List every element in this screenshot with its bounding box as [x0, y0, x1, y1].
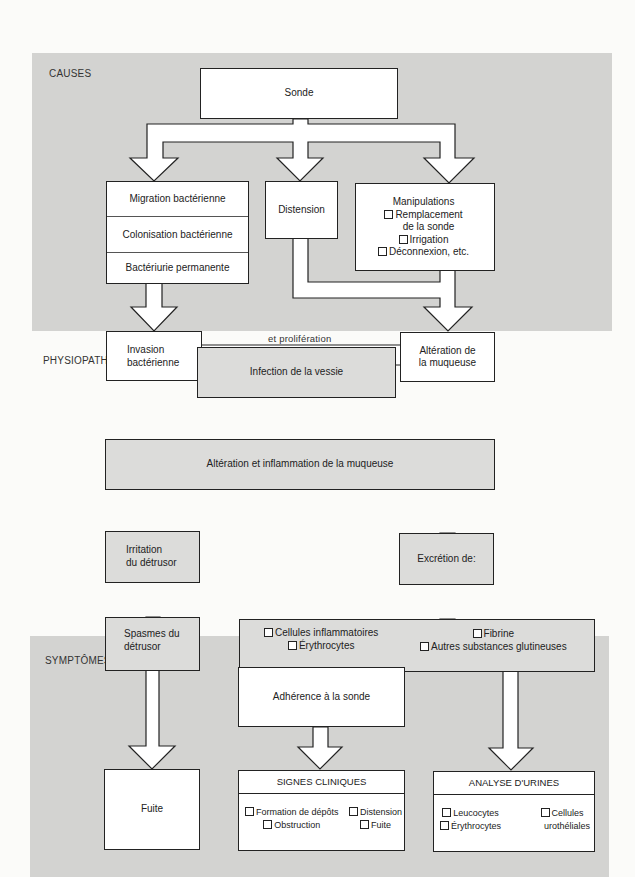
node-alteration-inflammation: Altération et inflammation de la muqueus… — [105, 439, 495, 490]
checkbox-icon — [245, 807, 254, 816]
checkbox-icon — [263, 820, 272, 829]
node-signes-cliniques: SIGNES CLINIQUES Formation de dépôts Obs… — [238, 770, 405, 851]
checkbox-icon — [420, 642, 429, 651]
node-excretion: Excrétion de: — [399, 533, 494, 585]
node-irritation: Irritation du détrusor — [105, 531, 200, 583]
node-adherence: Adhérence à la sonde — [238, 667, 405, 727]
checkbox-icon — [541, 808, 550, 817]
checkbox-icon — [264, 628, 273, 637]
node-invasion: Invasion bactérienne — [106, 331, 202, 381]
checkbox-icon — [384, 210, 393, 219]
node-infection: Infection de la vessie — [197, 347, 396, 398]
label-proliferation: et prolifération — [268, 333, 331, 344]
node-distension: Distension — [265, 181, 338, 239]
checkbox-icon — [442, 808, 451, 817]
node-analyse-urines: ANALYSE D'URINES Leucocytes Érythrocytes… — [433, 771, 595, 852]
node-bacteriurie: Bactériurie permanente — [107, 252, 248, 284]
node-migration: Migration bactérienne — [107, 182, 248, 216]
node-excretion-items: Cellules inflammatoires Érythrocytes Fib… — [239, 619, 595, 672]
node-colonisation: Colonisation bactérienne — [107, 216, 248, 253]
node-alteration-muqueuse: Altération de la muqueuse — [400, 332, 495, 382]
analyse-header: ANALYSE D'URINES — [434, 772, 594, 795]
node-sonde: Sonde — [200, 68, 398, 119]
signes-header: SIGNES CLINIQUES — [239, 771, 404, 794]
checkbox-icon — [360, 820, 369, 829]
node-spasmes: Spasmes du détrusor — [105, 617, 200, 671]
checkbox-icon — [399, 235, 408, 244]
checkbox-icon — [473, 629, 482, 638]
checkbox-icon — [349, 807, 358, 816]
checkbox-icon — [288, 641, 297, 650]
node-fuite: Fuite — [104, 769, 200, 850]
node-bacterial-chain: Migration bactérienne Colonisation bacté… — [106, 181, 249, 284]
node-manipulations: Manipulations Remplacement de la sonde I… — [355, 183, 495, 271]
checkbox-icon — [378, 247, 387, 256]
checkbox-icon — [440, 821, 449, 830]
